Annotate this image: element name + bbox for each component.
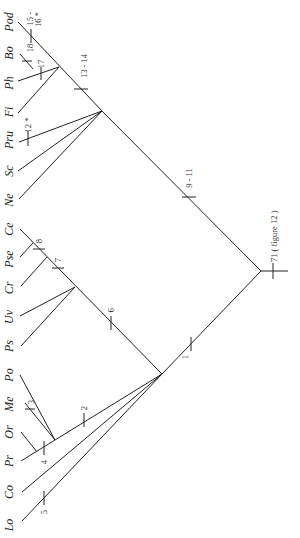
character-label: 7 [53, 258, 63, 262]
taxon-label: Pse [2, 250, 16, 269]
taxon-label: Ps [2, 340, 16, 353]
character-label: 17 [36, 60, 46, 69]
taxon-label: Po [2, 368, 16, 382]
taxon-label: Bo [2, 46, 16, 59]
character-label: 18 [25, 44, 35, 53]
taxon-label: Sc [2, 165, 16, 177]
character-labels: 15 - 16 * 18 17 13 - 14 12 * 9 - 11 71 (… [23, 12, 279, 514]
taxon-label: Pr [2, 455, 16, 468]
character-label: 3 [26, 400, 36, 404]
taxon-label: Pru [2, 131, 16, 150]
branch-po [20, 375, 55, 440]
branch-root-upper [102, 111, 261, 271]
branch-pse [20, 243, 33, 257]
taxon-label: Ph [2, 76, 16, 90]
taxon-labels: Pod Bo Ph Fi Pru Sc Ne Ce Pse Cr Uv Ps P… [2, 11, 16, 532]
character-label: 13 - 14 [79, 53, 89, 78]
taxon-label: Ce [2, 222, 16, 236]
branch-ce [20, 229, 162, 374]
character-ticks [22, 29, 273, 505]
character-label: 5 [39, 510, 49, 514]
taxon-label: Fi [2, 107, 16, 119]
branch-co [22, 374, 162, 492]
branch-uv [20, 287, 75, 316]
character-label: 6 [106, 308, 116, 312]
branch-root-lower [162, 271, 261, 374]
character-label: 16 * [33, 12, 43, 27]
character-label: 2 [79, 406, 89, 410]
branch-cr [21, 257, 47, 286]
taxon-label: Lo [2, 519, 16, 533]
taxon-label: Or [2, 425, 16, 439]
taxon-label: Cr [2, 281, 16, 294]
character-label: 9 - 11 [184, 168, 194, 188]
character-label: 71 ( figure 12 ) [269, 210, 279, 262]
taxon-label: Ne [2, 193, 16, 208]
branch-ps [21, 287, 75, 346]
character-label: 8 [34, 239, 44, 243]
character-label: 12 * [23, 118, 33, 133]
branch-or [21, 432, 37, 452]
taxon-label: Co [2, 485, 16, 499]
taxon-label: Me [2, 396, 16, 413]
character-label: 1 [180, 355, 190, 359]
character-label: 4 [39, 459, 49, 464]
taxon-label: Uv [2, 309, 16, 324]
branches [18, 22, 288, 521]
cladogram: Pod Bo Ph Fi Pru Sc Ne Ce Pse Cr Uv Ps P… [0, 0, 300, 538]
taxon-label: Pod [2, 11, 16, 32]
